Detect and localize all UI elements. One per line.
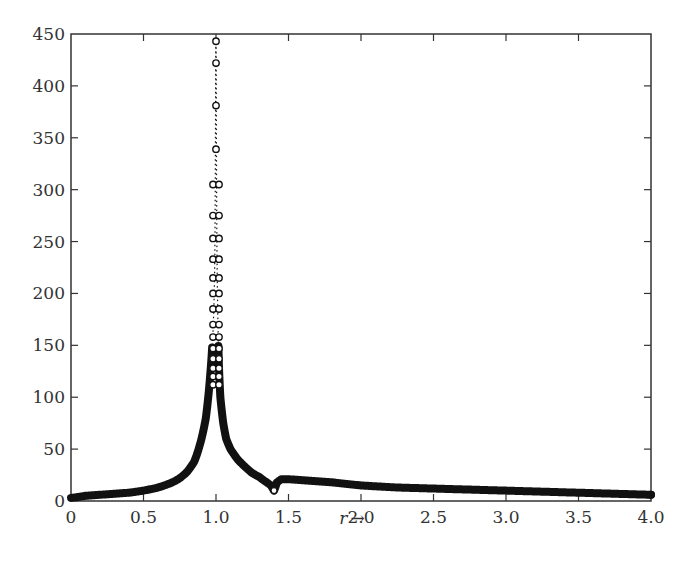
data-marker — [216, 334, 222, 340]
y-tick-label: 50 — [43, 439, 65, 459]
y-tick-label: 0 — [54, 491, 65, 511]
y-tick-label: 250 — [33, 232, 65, 252]
data-marker — [216, 275, 222, 281]
data-marker — [216, 382, 222, 388]
x-tick-label: 0 — [66, 507, 77, 527]
data-marker — [216, 321, 222, 327]
end-marker — [647, 491, 655, 499]
data-marker — [216, 212, 222, 218]
y-tick-label: 300 — [33, 180, 65, 200]
dip-marker — [271, 488, 277, 494]
x-tick-label: 2.5 — [420, 507, 447, 527]
data-line — [71, 41, 651, 498]
data-marker — [213, 102, 219, 108]
data-marker — [213, 60, 219, 66]
y-tick-label: 200 — [33, 283, 65, 303]
chart: 050100150200250300350400450 00.51.01.52.… — [0, 0, 689, 571]
data-marker — [213, 146, 219, 152]
x-axis-ticks: 00.51.01.52.02.53.03.54.0 — [66, 34, 665, 527]
data-marker — [216, 306, 222, 312]
x-tick-label: 3.5 — [565, 507, 592, 527]
x-tick-label: 1.0 — [202, 507, 229, 527]
y-axis-ticks: 050100150200250300350400450 — [33, 24, 651, 511]
data-marker — [213, 38, 219, 44]
data-marker — [216, 181, 222, 187]
data-marker — [216, 356, 222, 362]
curve-body — [71, 348, 212, 498]
x-tick-label: 3.0 — [492, 507, 519, 527]
y-tick-label: 150 — [33, 335, 65, 355]
data-markers — [210, 38, 655, 499]
data-marker — [216, 373, 222, 379]
data-marker — [216, 290, 222, 296]
y-tick-label: 350 — [33, 128, 65, 148]
x-tick-label: 0.5 — [130, 507, 157, 527]
x-tick-label: 4.0 — [637, 507, 664, 527]
data-marker — [216, 235, 222, 241]
data-marker — [216, 365, 222, 371]
data-marker — [216, 256, 222, 262]
curve-body — [218, 346, 651, 495]
data-marker — [216, 345, 222, 351]
x-axis-label: r→ — [339, 508, 364, 528]
y-tick-label: 100 — [33, 387, 65, 407]
y-tick-label: 450 — [33, 24, 65, 44]
x-tick-label: 1.5 — [275, 507, 302, 527]
y-tick-label: 400 — [33, 76, 65, 96]
plot-frame — [71, 34, 651, 501]
